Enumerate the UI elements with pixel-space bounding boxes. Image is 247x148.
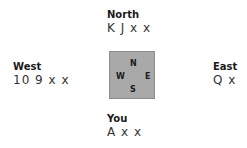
east-cards: Q x — [213, 73, 237, 87]
compass-west: W — [116, 72, 125, 81]
compass-table: N W E S — [109, 51, 155, 99]
south-cards: A x x — [107, 125, 142, 139]
compass-north: N — [130, 59, 137, 68]
north-hand: North K J x x — [107, 9, 151, 35]
south-hand: You A x x — [107, 113, 142, 139]
east-hand: East Q x — [213, 61, 237, 87]
west-hand: West 10 9 x x — [13, 61, 70, 87]
south-label: You — [107, 113, 142, 125]
north-cards: K J x x — [107, 21, 151, 35]
compass-south: S — [130, 85, 136, 94]
west-label: West — [13, 61, 70, 73]
west-cards: 10 9 x x — [13, 73, 70, 87]
north-label: North — [107, 9, 151, 21]
compass-east: E — [145, 72, 150, 81]
east-label: East — [213, 61, 237, 73]
